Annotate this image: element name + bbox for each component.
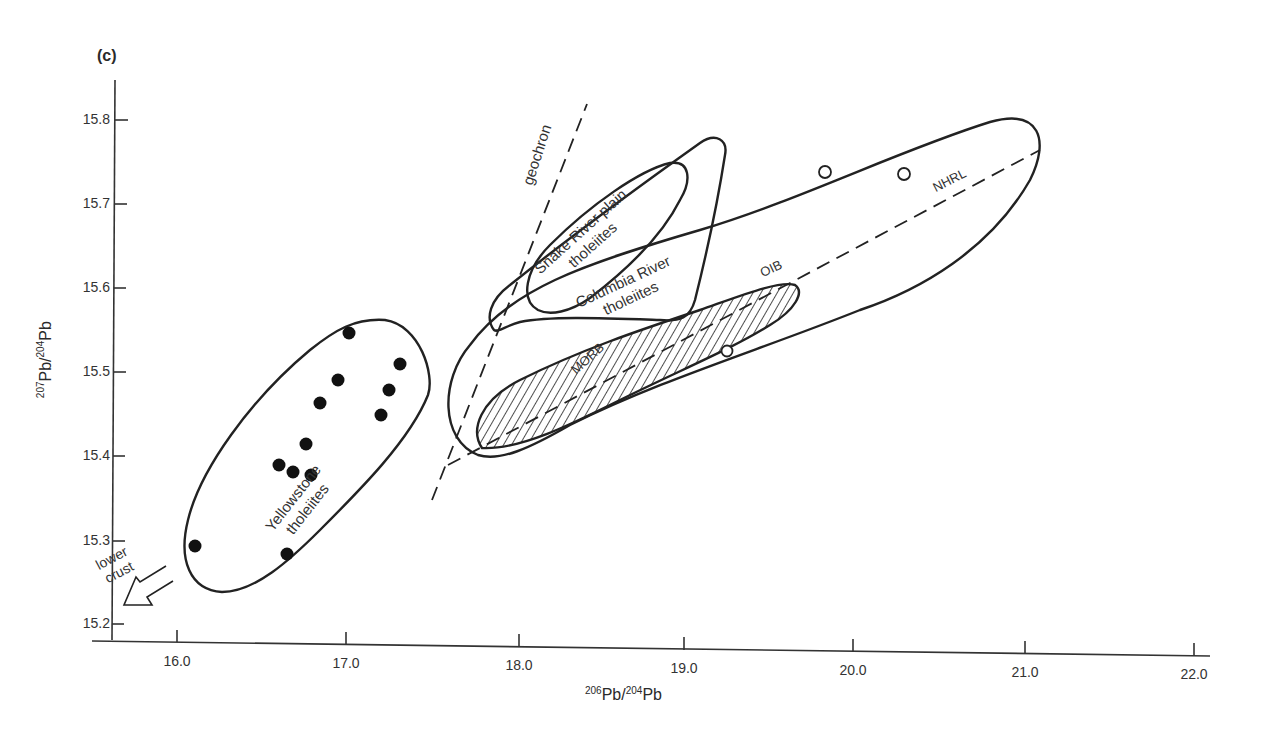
y-tick-label: 15.2 [58,615,110,631]
x-tick-label: 22.0 [1164,666,1224,682]
y-tick-label: 15.3 [58,532,110,548]
x-tick-label: 16.0 [147,653,207,669]
x-tick-label: 20.0 [823,662,883,678]
x-tick-label: 18.0 [489,657,549,673]
y-tick-label: 15.6 [58,279,110,295]
y-tick-label: 15.8 [58,111,110,127]
morb-field [477,284,799,448]
x-tick-label: 17.0 [316,655,376,671]
y-tick-label: 15.4 [58,447,110,463]
x-tick-label: 21.0 [995,664,1055,680]
y-tick-label: 15.5 [58,363,110,379]
y-axis-label: 207Pb/204Pb [35,305,54,415]
x-tick-label: 19.0 [654,660,714,676]
x-axis [92,630,1210,656]
yellowstone-field [185,320,430,592]
nhrl-line [448,150,1040,465]
chart-canvas [0,0,1274,734]
x-axis-label: 206Pb/204Pb [585,685,662,704]
y-tick-label: 15.7 [58,195,110,211]
